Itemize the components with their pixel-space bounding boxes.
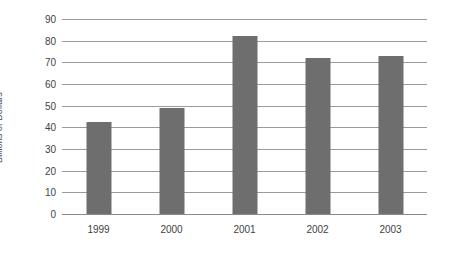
y-tick-label: 90 — [22, 14, 56, 25]
bar-2000 — [159, 108, 184, 214]
x-tick-label-2001: 2001 — [233, 224, 255, 235]
bar-2003 — [378, 56, 403, 214]
bar-2001 — [232, 36, 257, 214]
y-tick-label: 30 — [22, 144, 56, 155]
y-tick-label: 40 — [22, 122, 56, 133]
y-tick-label: 70 — [22, 57, 56, 68]
x-tick-label-2003: 2003 — [379, 224, 401, 235]
x-tick-label-2000: 2000 — [160, 224, 182, 235]
y-tick-label: 10 — [22, 187, 56, 198]
y-axis-title-label: Billions of Dollars — [0, 92, 4, 163]
y-tick-label: 0 — [22, 209, 56, 220]
bar-chart: Billions of Dollars 0102030405060708090 … — [0, 0, 453, 255]
y-tick-label: 20 — [22, 165, 56, 176]
y-tick-label: 50 — [22, 100, 56, 111]
x-tick-label-2002: 2002 — [306, 224, 328, 235]
gridline-0 — [62, 214, 427, 215]
y-tick-label: 60 — [22, 79, 56, 90]
x-tick-label-1999: 1999 — [87, 224, 109, 235]
bar-series — [62, 19, 427, 214]
plot-area — [62, 19, 427, 214]
y-tick-label: 80 — [22, 35, 56, 46]
bar-2002 — [305, 58, 330, 214]
bar-1999 — [86, 122, 111, 214]
